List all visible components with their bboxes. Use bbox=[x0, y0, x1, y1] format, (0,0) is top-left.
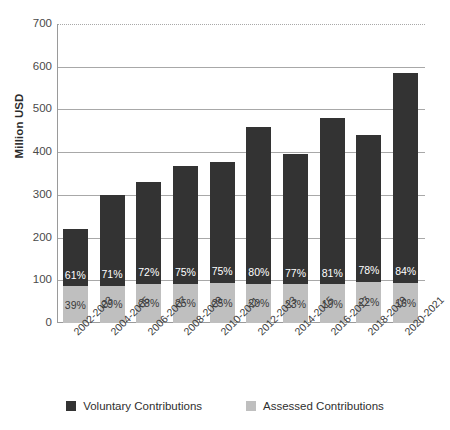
legend-label: Voluntary Contributions bbox=[83, 400, 202, 412]
bar-segment-voluntary[interactable]: 80% bbox=[246, 127, 271, 283]
bar-group[interactable]: 61%39% bbox=[63, 229, 88, 323]
bar-segment-voluntary[interactable]: 72% bbox=[136, 182, 161, 284]
y-tick-label: 0 bbox=[12, 317, 52, 329]
legend-swatch-icon bbox=[66, 401, 76, 411]
y-tick-label: 500 bbox=[12, 104, 52, 116]
legend-item[interactable]: Assessed Contributions bbox=[246, 400, 384, 412]
bar-value-label: 84% bbox=[393, 266, 418, 277]
bar-value-label: 72% bbox=[136, 267, 161, 278]
bar-value-label: 71% bbox=[100, 269, 125, 280]
y-tick-label: 600 bbox=[12, 61, 52, 73]
x-axis-labels: 2002-20032004-20052006-20072008-20092010… bbox=[57, 323, 424, 393]
bar-segment-voluntary[interactable]: 75% bbox=[210, 162, 235, 283]
y-tick-label: 700 bbox=[12, 18, 52, 30]
bar-segment-voluntary[interactable]: 61% bbox=[63, 229, 88, 286]
y-tick-label: 300 bbox=[12, 189, 52, 201]
bar-value-label: 77% bbox=[283, 268, 308, 279]
bar-segment-voluntary[interactable]: 71% bbox=[100, 195, 125, 286]
bar-value-label: 81% bbox=[320, 268, 345, 279]
stacked-bar-chart: Million USD 0100200300400500600700 61%39… bbox=[0, 0, 450, 430]
bar-segment-voluntary[interactable]: 77% bbox=[283, 154, 308, 284]
bar-segment-voluntary[interactable]: 84% bbox=[393, 73, 418, 283]
legend-item[interactable]: Voluntary Contributions bbox=[66, 400, 202, 412]
bar-value-label: 78% bbox=[356, 265, 381, 276]
bar-value-label: 75% bbox=[210, 266, 235, 277]
bar-value-label: 75% bbox=[173, 267, 198, 278]
bar-segment-voluntary[interactable]: 78% bbox=[356, 135, 381, 282]
bar-value-label: 61% bbox=[63, 270, 88, 281]
y-tick-label: 200 bbox=[12, 232, 52, 244]
legend-label: Assessed Contributions bbox=[263, 400, 384, 412]
bar-value-label: 39% bbox=[63, 300, 88, 311]
bar-segment-voluntary[interactable]: 81% bbox=[320, 118, 345, 284]
bars-layer: 61%39%71%29%72%28%75%25%75%25%80%20%77%2… bbox=[57, 24, 424, 323]
y-axis-title: Million USD bbox=[13, 66, 25, 186]
y-tick-label: 100 bbox=[12, 275, 52, 287]
bar-value-label: 80% bbox=[246, 267, 271, 278]
legend-swatch-icon bbox=[246, 401, 256, 411]
bar-segment-voluntary[interactable]: 75% bbox=[173, 166, 198, 284]
chart-legend: Voluntary ContributionsAssessed Contribu… bbox=[0, 400, 450, 412]
y-tick-label: 400 bbox=[12, 146, 52, 158]
